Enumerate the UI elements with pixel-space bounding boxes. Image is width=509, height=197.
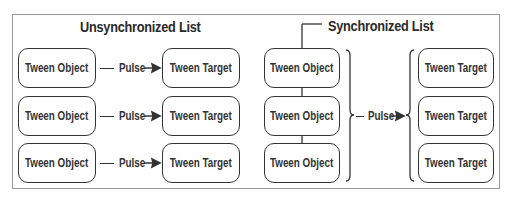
tween-object-box: Tween Object [18,48,96,88]
box-label: Tween Target [170,109,232,123]
pulse-connector: Pulse [100,156,147,170]
tween-target-box: Tween Target [162,143,240,183]
box-label: Tween Object [25,156,88,170]
sync-tween-target-box: Tween Target [418,143,494,183]
box-label: Tween Object [25,109,88,123]
sync-tween-object-box: Tween Object [264,143,340,183]
box-label: Tween Target [425,61,487,75]
pulse-label: Pulse [119,156,142,170]
sync-tween-target-box: Tween Target [418,48,494,88]
box-label: Tween Object [270,109,333,123]
sync-tween-object-box: Tween Object [264,48,340,88]
tween-target-box: Tween Target [162,48,240,88]
box-label: Tween Object [270,61,333,75]
synchronized-title: Synchronized List [328,17,433,34]
pulse-connector: Pulse [100,61,147,75]
tween-target-box: Tween Target [162,96,240,136]
pulse-connector: Pulse [100,109,147,123]
sync-tween-target-box: Tween Target [418,96,494,136]
box-label: Tween Target [425,156,487,170]
box-label: Tween Target [425,109,487,123]
box-label: Tween Target [170,61,232,75]
box-label: Tween Object [270,156,333,170]
tween-object-box: Tween Object [18,143,96,183]
sync-pulse-connector: Pulse [356,109,396,123]
box-label: Tween Object [25,61,88,75]
box-label: Tween Target [170,156,232,170]
sync-tween-object-box: Tween Object [264,96,340,136]
pulse-label: Pulse [368,109,391,123]
unsynchronized-title: Unsynchronized List [80,18,201,35]
tween-object-box: Tween Object [18,96,96,136]
pulse-label: Pulse [119,109,142,123]
pulse-label: Pulse [119,61,142,75]
